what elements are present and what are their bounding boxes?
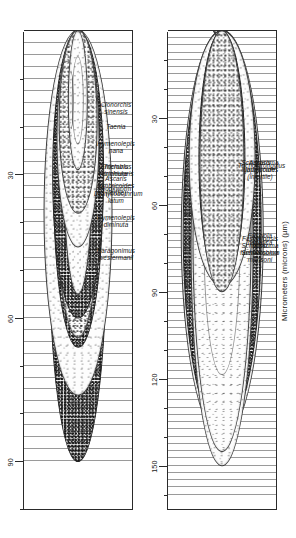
species-label: Trichostrongylus <box>238 162 282 169</box>
species-label: Schistosoma haematobium <box>238 242 282 256</box>
axis-tick-major <box>159 466 168 467</box>
gridline <box>168 479 276 480</box>
axis-tick-major <box>159 379 168 380</box>
gridline <box>168 472 276 473</box>
parasite-egg-size-chart: 306090 Paragonimus westermaniiHymenolepi… <box>0 0 296 538</box>
species-label: Ascaris lumbricoides (fertile) <box>94 175 138 196</box>
axis-tick-major <box>15 461 24 462</box>
egg-operculum <box>68 71 74 129</box>
axis-tick-label: 60 <box>150 202 159 210</box>
axis-tick-label: 90 <box>6 458 15 466</box>
axis-tick-label: 90 <box>150 289 159 297</box>
chart-panel-upper: 306090 Paragonimus westermaniiHymenolepi… <box>6 32 132 510</box>
axis-tick-major <box>15 318 24 319</box>
axis-upper: 306090 <box>6 32 24 510</box>
axis-tick-major <box>159 292 168 293</box>
species-label: Enterobius vermicularis <box>94 163 138 177</box>
gridline <box>168 494 276 495</box>
plot-area-lower <box>168 30 277 510</box>
axis-tick-major <box>159 205 168 206</box>
species-label: Clonorchis sinensis <box>94 101 138 115</box>
axis-tick-major <box>159 118 168 119</box>
axis-lower: 306090120150 <box>150 32 168 510</box>
axis-tick-label: 120 <box>150 373 159 386</box>
species-label: Hymenolepis nana <box>94 140 138 154</box>
axis-tick-major <box>15 174 24 175</box>
chart-panel-lower: 306090120150 Fasciolopsis buskiFasciola … <box>150 32 276 510</box>
egg-inner-membrane <box>72 56 84 145</box>
axis-title: Micrometers (microns) (µm) <box>280 32 289 510</box>
species-label: Hymenolepis diminuta <box>94 214 138 228</box>
species-label: Taenia <box>94 123 138 130</box>
axis-tick-label: 60 <box>6 315 15 323</box>
species-label: Paragonimus westermanii <box>94 247 138 261</box>
figure-rotator: 306090 Paragonimus westermaniiHymenolepi… <box>0 0 296 538</box>
axis-tick-label: 150 <box>150 460 159 473</box>
axis-tick-label: 30 <box>150 115 159 123</box>
axis-tick-label: 30 <box>6 171 15 179</box>
gridline <box>168 486 276 487</box>
